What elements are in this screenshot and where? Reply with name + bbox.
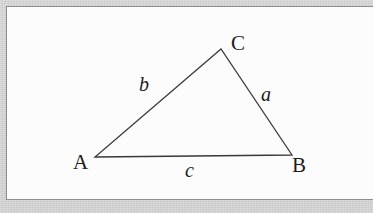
triangle-diagram (0, 0, 373, 213)
figure-page: A B C a b c (0, 0, 373, 213)
side-label-a: a (261, 84, 271, 104)
side-label-c: c (185, 160, 194, 180)
vertex-label-b: B (292, 155, 306, 176)
side-label-b: b (139, 74, 149, 94)
vertex-label-c: C (231, 33, 245, 54)
vertex-label-a: A (73, 152, 88, 173)
